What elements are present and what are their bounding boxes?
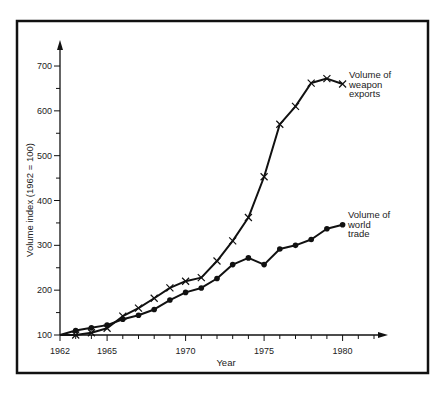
x-marker-icon xyxy=(292,103,299,110)
x-marker-icon xyxy=(214,258,221,265)
dot-marker-icon xyxy=(324,226,330,232)
dot-marker-icon xyxy=(214,276,220,282)
dot-marker-icon xyxy=(167,297,173,303)
dot-marker-icon xyxy=(89,325,95,331)
dot-marker-icon xyxy=(104,322,110,328)
series-lines xyxy=(60,75,346,338)
dot-marker-icon xyxy=(340,222,346,228)
dot-marker-icon xyxy=(277,246,283,252)
x-axis-arrow-icon xyxy=(378,332,388,338)
series-line-weapon-exports xyxy=(60,79,343,335)
dot-marker-icon xyxy=(308,237,314,243)
dot-marker-icon xyxy=(230,262,236,268)
dot-marker-icon xyxy=(246,255,252,261)
dot-marker-icon xyxy=(199,285,205,291)
y-tick-label: 500 xyxy=(37,151,52,161)
series-labels: Volume ofweaponexportsVolume ofworldtrad… xyxy=(347,69,392,239)
y-tick-label: 600 xyxy=(37,106,52,116)
ticks: 1002003004005006007001962196519701975198… xyxy=(37,61,374,356)
dot-marker-icon xyxy=(261,262,267,268)
y-tick-label: 200 xyxy=(37,285,52,295)
x-tick-label: 1965 xyxy=(97,346,117,356)
x-tick-label: 1970 xyxy=(176,346,196,356)
x-marker-icon xyxy=(229,237,236,244)
x-axis-title: Year xyxy=(216,357,235,368)
y-tick-label: 100 xyxy=(37,330,52,340)
y-axis-arrow-icon xyxy=(57,40,63,50)
dot-marker-icon xyxy=(293,243,299,249)
x-tick-label: 1980 xyxy=(333,346,353,356)
axes xyxy=(57,40,388,338)
dot-marker-icon xyxy=(183,290,189,296)
y-tick-label: 400 xyxy=(37,196,52,206)
series-label-line: exports xyxy=(349,88,380,99)
dot-marker-icon xyxy=(151,307,157,313)
dot-marker-icon xyxy=(120,317,126,323)
y-tick-label: 700 xyxy=(37,61,52,71)
series-label-line: trade xyxy=(348,228,370,239)
dot-marker-icon xyxy=(136,312,142,318)
x-tick-label: 1975 xyxy=(254,346,274,356)
x-tick-label: 1962 xyxy=(50,346,70,356)
y-axis-title: Volume index (1962 = 100) xyxy=(24,143,35,257)
dot-marker-icon xyxy=(73,328,79,334)
x-marker-icon xyxy=(135,305,142,312)
chart: 1002003004005006007001962196519701975198… xyxy=(0,0,444,393)
y-tick-label: 300 xyxy=(37,240,52,250)
series-line-world-trade xyxy=(60,225,343,335)
x-marker-icon xyxy=(151,295,158,302)
